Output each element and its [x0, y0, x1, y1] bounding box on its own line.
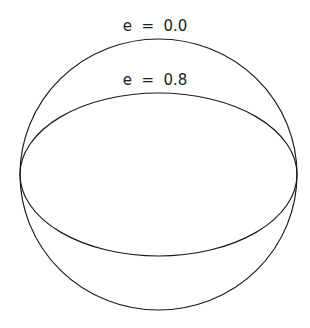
eccentricity-diagram: e = 0.0 e = 0.8 — [0, 0, 310, 328]
ellipse-e08 — [20, 93, 297, 256]
label-e0: e = 0.0 — [123, 17, 188, 35]
label-e08: e = 0.8 — [123, 71, 188, 89]
